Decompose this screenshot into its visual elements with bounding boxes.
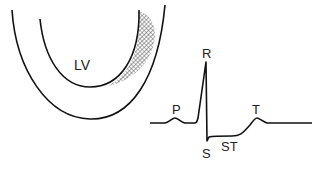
ecg-tracing: P R S ST T — [150, 46, 312, 161]
t-wave-label: T — [252, 102, 260, 117]
st-segment-label: ST — [221, 139, 238, 154]
p-wave-label: P — [172, 102, 181, 117]
left-ventricle-diagram: LV — [12, 5, 165, 119]
s-wave-label: S — [202, 146, 211, 161]
r-wave-label: R — [202, 46, 211, 61]
lv-label: LV — [74, 57, 91, 73]
diagram-canvas: LV P R S ST T — [0, 0, 324, 169]
